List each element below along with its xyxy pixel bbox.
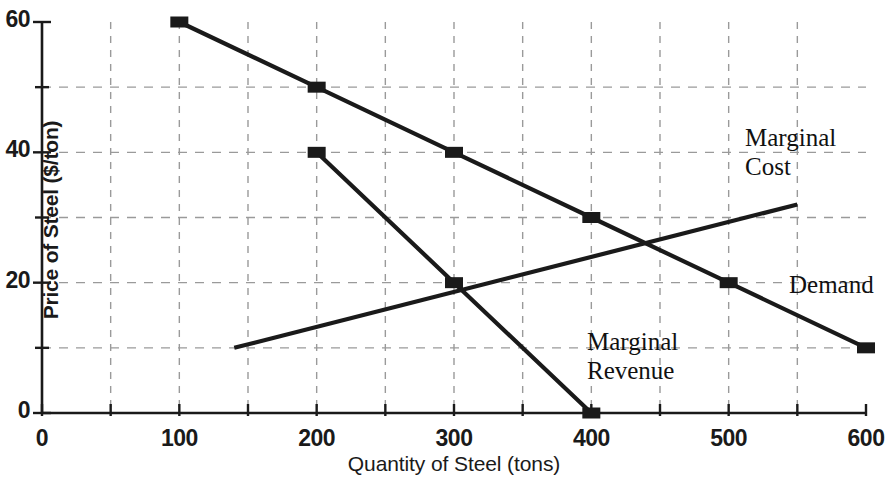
plot-canvas: [0, 0, 886, 480]
series-label-marginal-revenue: Marginal Revenue: [587, 327, 678, 385]
x-tick-label: 200: [282, 425, 352, 452]
data-point-marker: [170, 17, 188, 28]
y-tick-label: 60: [0, 6, 30, 33]
y-tick-label: 20: [0, 267, 30, 294]
data-point-marker: [720, 277, 738, 288]
series-label-marginal-cost: Marginal Cost: [745, 123, 836, 181]
y-axis-title: Price of Steel ($/ton): [34, 0, 68, 440]
data-point-marker: [857, 342, 875, 353]
series-label-demand: Demand: [789, 270, 874, 299]
y-tick-label: 40: [0, 136, 30, 163]
x-tick-label: 600: [831, 425, 886, 452]
x-axis-title: Quantity of Steel (tons): [42, 452, 866, 476]
x-tick-label: 0: [7, 425, 77, 452]
x-tick-label: 100: [144, 425, 214, 452]
x-tick-label: 300: [419, 425, 489, 452]
data-point-marker: [445, 277, 463, 288]
data-point-marker: [582, 212, 600, 223]
y-tick-label: 0: [0, 397, 30, 424]
data-point-marker: [445, 147, 463, 158]
data-point-marker: [582, 408, 600, 419]
economics-chart-figure: Price of Steel ($/ton) Quantity of Steel…: [0, 0, 886, 480]
data-point-marker: [308, 82, 326, 93]
data-point-marker: [308, 147, 326, 158]
x-tick-label: 500: [694, 425, 764, 452]
x-tick-label: 400: [556, 425, 626, 452]
